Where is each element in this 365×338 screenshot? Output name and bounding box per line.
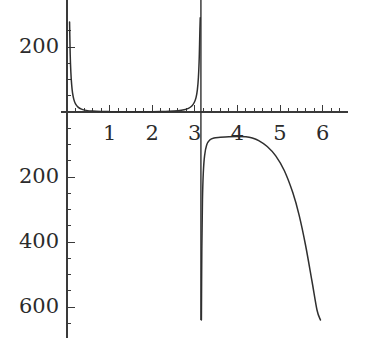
y-axis-tick-label-600-negative: 600 — [19, 296, 59, 317]
y-axis-tick-label-400-negative: 400 — [19, 231, 59, 252]
x-axis-tick-label-3: 3 — [175, 123, 215, 144]
x-axis-tick-label-1: 1 — [90, 123, 130, 144]
x-axis-tick-label-5: 5 — [260, 123, 300, 144]
axes-group — [61, 0, 349, 338]
curve-branch-left — [70, 18, 201, 112]
curve-group — [70, 0, 321, 320]
x-axis-tick-label-2: 2 — [132, 123, 172, 144]
y-axis-tick-label-200-positive: 200 — [19, 36, 59, 57]
x-axis-tick-label-6: 6 — [303, 123, 343, 144]
x-axis-tick-label-4: 4 — [217, 123, 257, 144]
curve-branch-right — [201, 136, 320, 320]
plot-figure: 200 200 400 600 1 2 3 4 5 6 — [0, 0, 365, 338]
y-axis-tick-label-200-negative: 200 — [19, 166, 59, 187]
